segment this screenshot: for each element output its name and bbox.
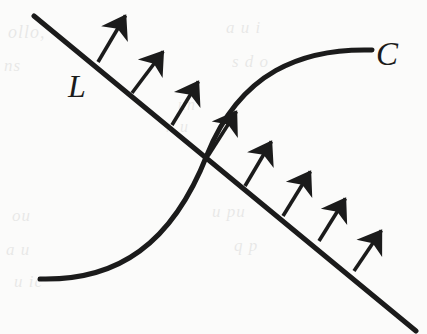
bleed-through-text: un — [178, 96, 196, 114]
normal-arrow — [354, 231, 381, 272]
normal-arrow — [319, 199, 345, 242]
bleed-through-text: u pu — [212, 202, 246, 222]
label-C: C — [376, 38, 398, 71]
figure-canvas: ollo,a u inss d ounn uouu pua uq pu ic L… — [0, 0, 427, 334]
bleed-through-text: ollo, — [8, 22, 46, 43]
normal-arrow — [208, 112, 236, 157]
curve-C — [40, 50, 372, 279]
bleed-through-text: s d o — [232, 52, 269, 72]
normal-arrow — [245, 142, 271, 187]
bleed-through-text: ns — [4, 56, 21, 76]
bleed-through-text: a u i — [226, 18, 261, 38]
bleed-through-text: q p — [234, 236, 258, 256]
line-L — [34, 16, 416, 331]
bleed-through-text: u ic — [14, 272, 43, 292]
normal-arrow — [132, 52, 163, 94]
diagram-svg — [0, 0, 427, 334]
bleed-through-text: ou — [12, 206, 31, 226]
normal-arrow — [283, 172, 310, 217]
normal-arrow — [98, 16, 126, 63]
bleed-through-text: n u — [166, 118, 189, 136]
label-L: L — [68, 70, 86, 102]
bleed-through-text: a u — [6, 240, 30, 260]
